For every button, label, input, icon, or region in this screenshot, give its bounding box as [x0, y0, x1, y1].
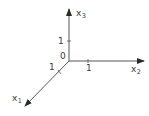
axes-drawing: [0, 0, 149, 116]
x1-tick-label: 1: [49, 63, 55, 72]
x3-tick-label: 1: [58, 37, 64, 46]
x1-axis-label: x1: [12, 94, 22, 103]
x1-axis-line: [25, 61, 69, 106]
x2-tick-label: 1: [86, 64, 92, 73]
x3-axis-label: x3: [76, 9, 86, 18]
coordinate-axes-diagram: x3 x2 x1 1 1 1 0: [0, 0, 149, 116]
x2-axis-label: x2: [131, 65, 141, 74]
origin-label: 0: [60, 52, 66, 61]
